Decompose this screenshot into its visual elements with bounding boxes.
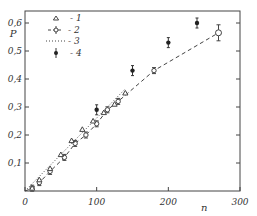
series-1-triangle-marker (69, 138, 74, 143)
legend-label: - 1 (70, 13, 82, 23)
series-4-filled-marker (130, 68, 134, 72)
legend-circle-icon (54, 28, 58, 32)
x-axis-label: n (201, 202, 207, 213)
y-tick-label: 0,6 (8, 18, 23, 28)
series-2-circle-marker (105, 108, 109, 112)
series-4-filled-marker (94, 108, 98, 112)
series-2-circle-marker (84, 133, 88, 137)
y-tick-label: 0,3 (8, 102, 23, 112)
x-tick-label: 200 (159, 197, 177, 207)
series-4-filled-marker (195, 21, 199, 25)
series-1-triangle-marker (80, 127, 85, 132)
series-2-circle-marker (116, 99, 120, 103)
x-tick-label: 300 (231, 197, 248, 207)
legend-label: - 2 (68, 25, 80, 35)
x-tick-label: 100 (88, 197, 105, 207)
series-4-filled-marker (166, 40, 170, 44)
legend-label: - 3 (68, 36, 80, 46)
series-2-dashed-curve (25, 33, 219, 191)
series-1-triangle-marker (58, 152, 63, 157)
legend-label: - 4 (70, 48, 82, 58)
series-1-triangle-marker (90, 118, 95, 123)
y-tick-label: 0,1 (8, 158, 22, 168)
y-axis-label: P (9, 28, 17, 39)
chart: 0,10,20,30,40,50,60100200300nP- 1- 2- 3-… (0, 0, 257, 216)
series-2-circle-marker (216, 30, 222, 36)
y-tick-label: 0,2 (8, 130, 23, 140)
legend-filled-circle-icon (54, 51, 58, 55)
y-tick-label: 0,4 (8, 74, 23, 84)
y-tick-label: 0,5 (8, 46, 23, 56)
x-tick-label: 0 (22, 197, 28, 207)
legend-triangle-icon (53, 16, 58, 20)
series-2-circle-marker (152, 68, 156, 72)
series-1-triangle-marker (123, 90, 128, 95)
